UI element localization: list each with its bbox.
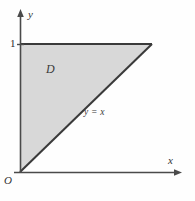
y-tick-label-1: 1 <box>10 38 16 49</box>
x-axis-arrowhead <box>174 169 182 176</box>
math-figure-region-d: y x 1 O D y = x <box>0 0 195 201</box>
figure-canvas <box>0 0 195 201</box>
y-axis-arrowhead <box>17 9 24 17</box>
line-label-y-equals-x: y = x <box>84 108 105 118</box>
region-label-d: D <box>46 63 55 75</box>
y-axis-label: y <box>28 9 33 20</box>
origin-label: O <box>4 175 12 186</box>
x-axis-label: x <box>168 155 173 166</box>
